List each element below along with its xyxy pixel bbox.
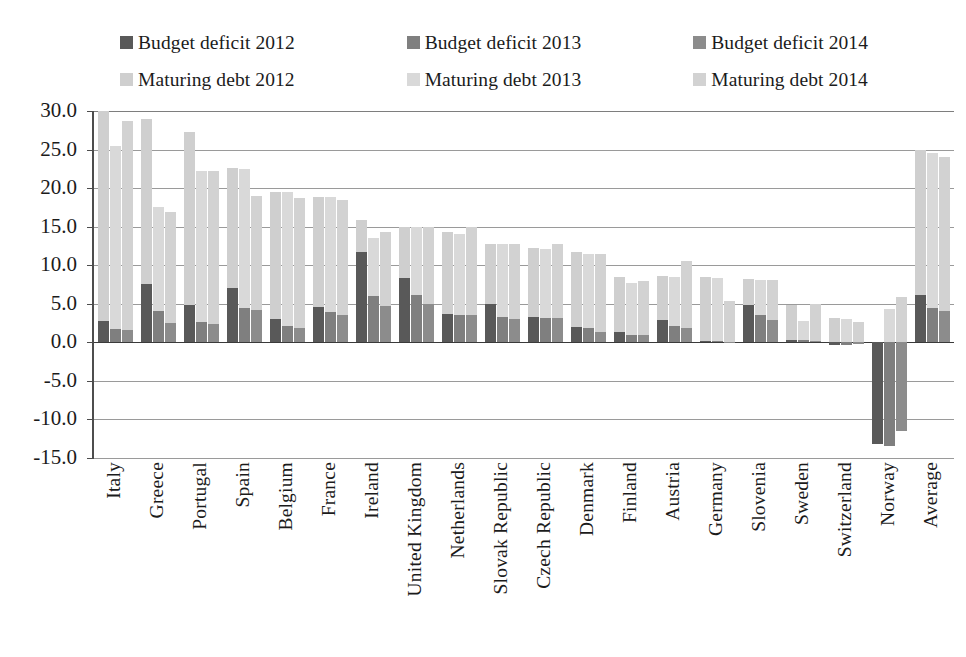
bar-segment-maturing-debt[interactable]: [669, 277, 680, 326]
bar-stack[interactable]: [595, 111, 606, 458]
bar-stack[interactable]: [552, 111, 563, 458]
bar-segment-maturing-debt[interactable]: [540, 249, 551, 318]
bar-segment-deficit[interactable]: [165, 323, 176, 342]
bar-segment-maturing-debt[interactable]: [294, 198, 305, 328]
bar-stack[interactable]: [829, 111, 840, 458]
legend-item-maturing-debt-2013[interactable]: Maturing debt 2013: [379, 70, 666, 90]
bar-segment-maturing-debt[interactable]: [141, 119, 152, 283]
bar-segment-deficit[interactable]: [853, 342, 864, 344]
bar-segment-maturing-debt[interactable]: [528, 248, 539, 317]
bar-stack[interactable]: [853, 111, 864, 458]
bar-segment-deficit[interactable]: [884, 342, 895, 446]
bar-stack[interactable]: [583, 111, 594, 458]
bar-stack[interactable]: [227, 111, 238, 458]
bar-stack[interactable]: [927, 111, 938, 458]
bar-segment-deficit[interactable]: [743, 305, 754, 342]
bar-segment-maturing-debt[interactable]: [829, 318, 840, 343]
legend-item-budget-deficit-2012[interactable]: Budget deficit 2012: [92, 33, 379, 53]
bar-segment-deficit[interactable]: [423, 304, 434, 343]
bar-segment-deficit[interactable]: [927, 308, 938, 343]
bar-segment-maturing-debt[interactable]: [184, 132, 195, 305]
bar-segment-maturing-debt[interactable]: [270, 192, 281, 319]
bar-stack[interactable]: [184, 111, 195, 458]
bar-stack[interactable]: [571, 111, 582, 458]
bar-stack[interactable]: [337, 111, 348, 458]
bar-segment-deficit[interactable]: [786, 340, 797, 342]
bar-stack[interactable]: [700, 111, 711, 458]
bar-stack[interactable]: [368, 111, 379, 458]
bar-segment-maturing-debt[interactable]: [939, 157, 950, 311]
bar-segment-maturing-debt[interactable]: [657, 276, 668, 320]
bar-segment-maturing-debt[interactable]: [239, 169, 250, 308]
bar-segment-maturing-debt[interactable]: [165, 212, 176, 323]
bar-segment-maturing-debt[interactable]: [552, 244, 563, 317]
bar-stack[interactable]: [466, 111, 477, 458]
bar-segment-deficit[interactable]: [153, 311, 164, 342]
bar-segment-maturing-debt[interactable]: [442, 232, 453, 314]
bar-segment-maturing-debt[interactable]: [399, 227, 410, 278]
bar-segment-maturing-debt[interactable]: [798, 321, 809, 340]
bar-stack[interactable]: [657, 111, 668, 458]
bar-segment-deficit[interactable]: [638, 335, 649, 342]
bar-stack[interactable]: [282, 111, 293, 458]
bar-stack[interactable]: [497, 111, 508, 458]
bar-segment-deficit[interactable]: [141, 284, 152, 343]
bar-stack[interactable]: [485, 111, 496, 458]
bar-segment-deficit[interactable]: [755, 315, 766, 343]
bar-segment-maturing-debt[interactable]: [927, 153, 938, 307]
bar-segment-deficit[interactable]: [583, 328, 594, 342]
bar-segment-deficit[interactable]: [98, 321, 109, 343]
bar-segment-maturing-debt[interactable]: [423, 227, 434, 304]
bar-segment-maturing-debt[interactable]: [153, 207, 164, 311]
bar-segment-deficit[interactable]: [540, 318, 551, 343]
legend-item-budget-deficit-2014[interactable]: Budget deficit 2014: [665, 33, 952, 53]
bar-segment-deficit[interactable]: [282, 326, 293, 342]
legend-item-budget-deficit-2013[interactable]: Budget deficit 2013: [379, 33, 666, 53]
bar-stack[interactable]: [712, 111, 723, 458]
bar-stack[interactable]: [638, 111, 649, 458]
bar-segment-deficit[interactable]: [368, 296, 379, 342]
bar-segment-maturing-debt[interactable]: [282, 192, 293, 326]
bar-stack[interactable]: [915, 111, 926, 458]
bar-stack[interactable]: [98, 111, 109, 458]
bar-segment-deficit[interactable]: [294, 328, 305, 342]
bar-stack[interactable]: [454, 111, 465, 458]
bar-stack[interactable]: [614, 111, 625, 458]
bar-segment-maturing-debt[interactable]: [915, 150, 926, 295]
bar-segment-maturing-debt[interactable]: [208, 171, 219, 324]
bar-segment-maturing-debt[interactable]: [380, 232, 391, 306]
bar-segment-deficit[interactable]: [399, 278, 410, 342]
bar-segment-deficit[interactable]: [552, 318, 563, 343]
bar-stack[interactable]: [380, 111, 391, 458]
bar-segment-deficit[interactable]: [829, 342, 840, 345]
bar-stack[interactable]: [841, 111, 852, 458]
bar-segment-maturing-debt[interactable]: [337, 200, 348, 316]
bar-stack[interactable]: [325, 111, 336, 458]
bar-segment-deficit[interactable]: [122, 330, 133, 342]
bar-segment-maturing-debt[interactable]: [227, 168, 238, 288]
bar-stack[interactable]: [540, 111, 551, 458]
bar-segment-maturing-debt[interactable]: [595, 254, 606, 333]
bar-stack[interactable]: [294, 111, 305, 458]
bar-stack[interactable]: [743, 111, 754, 458]
bar-segment-maturing-debt[interactable]: [454, 234, 465, 315]
bar-segment-maturing-debt[interactable]: [638, 281, 649, 335]
bar-segment-maturing-debt[interactable]: [884, 309, 895, 342]
bar-stack[interactable]: [423, 111, 434, 458]
bar-segment-maturing-debt[interactable]: [313, 197, 324, 306]
bar-stack[interactable]: [810, 111, 821, 458]
bar-stack[interactable]: [798, 111, 809, 458]
bar-stack[interactable]: [939, 111, 950, 458]
bar-segment-deficit[interactable]: [712, 341, 723, 343]
bar-segment-maturing-debt[interactable]: [755, 280, 766, 315]
bar-segment-maturing-debt[interactable]: [411, 227, 422, 295]
bar-segment-maturing-debt[interactable]: [810, 304, 821, 341]
bar-stack[interactable]: [896, 111, 907, 458]
bar-segment-maturing-debt[interactable]: [251, 196, 262, 310]
bar-stack[interactable]: [141, 111, 152, 458]
bar-segment-maturing-debt[interactable]: [196, 171, 207, 322]
bar-segment-deficit[interactable]: [485, 304, 496, 343]
bar-segment-maturing-debt[interactable]: [743, 279, 754, 305]
bar-segment-maturing-debt[interactable]: [712, 278, 723, 341]
bar-segment-deficit[interactable]: [571, 327, 582, 342]
